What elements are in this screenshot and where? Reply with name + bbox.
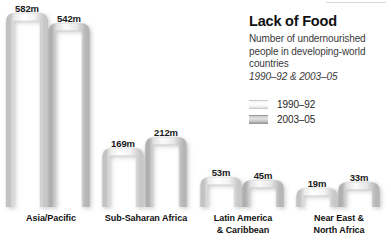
legend-label-1990-92: 1990–92 — [277, 99, 315, 110]
value-label-ssa-1990: 169m — [111, 138, 135, 149]
chart-legend: 1990–92 2003–05 — [249, 98, 315, 128]
bar-lac-2003-core — [246, 184, 280, 207]
category-label-near-east-north-africa: Near East & North Africa — [313, 213, 364, 236]
category-label-latin-america-caribbean-line1: Latin America — [214, 213, 273, 225]
bar-ssa-2003 — [149, 141, 183, 207]
bar-ssa-1990 — [106, 152, 140, 207]
category-label-latin-america-caribbean-line2: & Caribbean — [214, 225, 273, 237]
category-label-near-east-north-africa-line1: Near East & — [313, 213, 364, 225]
value-label-nena-1990: 19m — [308, 178, 327, 189]
bar-asia-1990-outline — [10, 17, 44, 207]
bar-nena-2003-core — [342, 186, 376, 207]
category-label-latin-america-caribbean: Latin America & Caribbean — [214, 213, 273, 236]
bar-asia-1990 — [10, 17, 44, 207]
legend-label-2003-05: 2003–05 — [277, 114, 315, 125]
value-label-ssa-2003: 212m — [154, 127, 178, 138]
value-label-lac-1990: 53m — [212, 167, 231, 178]
value-label-asia-2003: 542m — [57, 13, 81, 24]
description-line-3: countries — [249, 58, 385, 71]
infographic-chart: 582m 542m 169m 212m 53m 45m 19m 33m Asia… — [0, 0, 391, 243]
category-label-sub-saharan-africa: Sub-Saharan Africa — [105, 213, 187, 225]
bar-ssa-1990-core — [106, 152, 140, 207]
description-line-1: Number of undernourished — [249, 33, 385, 46]
description-line-2: people in developing-world — [249, 46, 385, 59]
bar-asia-2003-core — [52, 27, 86, 207]
bar-nena-1990-core — [300, 192, 334, 207]
legend-swatch-icon-2003-05 — [249, 115, 268, 124]
category-label-sub-saharan-africa-line1: Sub-Saharan Africa — [105, 213, 187, 225]
value-label-asia-1990: 582m — [15, 3, 39, 14]
category-label-asia-pacific-line1: Asia/Pacific — [26, 213, 76, 225]
bar-asia-2003 — [52, 27, 86, 207]
category-label-asia-pacific: Asia/Pacific — [26, 213, 76, 225]
value-label-nena-2003: 33m — [350, 172, 369, 183]
bar-ssa-2003-core — [149, 141, 183, 207]
bar-asia-1990-core — [10, 17, 44, 207]
bar-lac-1990 — [204, 181, 238, 207]
info-panel: Lack of Food Number of undernourished pe… — [249, 13, 385, 83]
category-label-near-east-north-africa-line2: North Africa — [313, 225, 364, 237]
legend-swatch-icon-1990-92 — [249, 100, 268, 109]
page-title: Lack of Food — [249, 13, 385, 29]
legend-item-1990-92: 1990–92 — [249, 98, 315, 111]
legend-item-2003-05: 2003–05 — [249, 113, 315, 126]
value-label-lac-2003: 45m — [254, 170, 273, 181]
period-annotation: 1990–92 & 2003–05 — [249, 71, 385, 84]
